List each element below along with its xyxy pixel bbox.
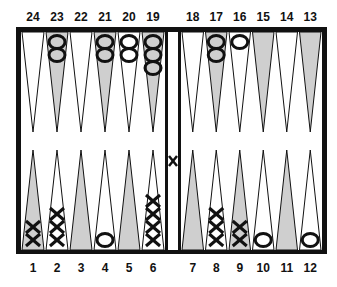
point-label-5: 5 [126, 261, 133, 275]
point-label-7: 7 [189, 261, 196, 275]
point-label-2: 2 [54, 261, 61, 275]
point-label-15: 15 [257, 10, 271, 24]
point-label-17: 17 [210, 10, 224, 24]
point-label-22: 22 [74, 10, 88, 24]
point-15[interactable] [253, 32, 275, 132]
point-label-6: 6 [150, 261, 157, 275]
point-18[interactable] [182, 32, 204, 132]
bar-left-edge [165, 27, 168, 254]
point-label-16: 16 [233, 10, 247, 24]
point-label-12: 12 [304, 261, 318, 275]
point-label-23: 23 [50, 10, 64, 24]
point-24[interactable] [22, 32, 44, 132]
point-5[interactable] [118, 150, 140, 250]
board-points [22, 32, 321, 250]
point-label-9: 9 [236, 261, 243, 275]
point-label-4: 4 [102, 261, 109, 275]
point-22[interactable] [70, 32, 92, 132]
point-label-14: 14 [280, 10, 294, 24]
point-label-24: 24 [26, 10, 40, 24]
point-3[interactable] [70, 150, 92, 250]
point-label-1: 1 [30, 261, 37, 275]
point-label-3: 3 [78, 261, 85, 275]
point-13[interactable] [300, 32, 322, 132]
point-label-21: 21 [98, 10, 112, 24]
point-14[interactable] [276, 32, 298, 132]
frame-bottom [16, 250, 327, 254]
point-label-8: 8 [213, 261, 220, 275]
bar-right-edge [178, 27, 181, 254]
point-11[interactable] [276, 150, 298, 250]
point-label-10: 10 [257, 261, 271, 275]
frame-top [16, 27, 327, 32]
point-label-11: 11 [280, 261, 293, 275]
frame-right [322, 27, 327, 254]
bottom-point-labels: 123456789101112 [30, 261, 318, 275]
backgammon-board: 242322212019181716151413 123456789101112 [0, 0, 337, 287]
point-label-13: 13 [304, 10, 318, 24]
frame-left [16, 27, 21, 254]
x-checker-bar[interactable] [169, 156, 177, 166]
point-label-19: 19 [146, 10, 160, 24]
top-point-labels: 242322212019181716151413 [26, 10, 317, 24]
point-label-20: 20 [122, 10, 136, 24]
point-label-18: 18 [186, 10, 200, 24]
checkers [26, 36, 318, 247]
point-7[interactable] [182, 150, 204, 250]
